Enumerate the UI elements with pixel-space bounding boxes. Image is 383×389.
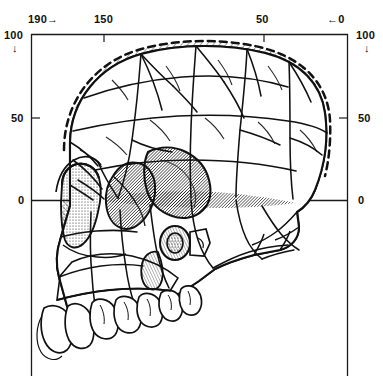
skull-illustration xyxy=(0,0,383,389)
upper-dentition xyxy=(37,286,202,360)
figure-container: 190→ 150 50 ←0 100 ↓ 50 0 100 ↓ 50 0 xyxy=(0,0,383,389)
figure-caption xyxy=(0,381,383,389)
